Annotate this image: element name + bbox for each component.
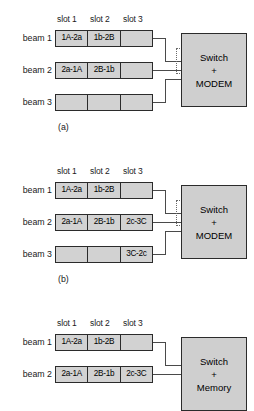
beam-1-slot-3-cell <box>121 183 152 198</box>
beam-2-row: 2a-1A 2B-1b <box>55 62 153 79</box>
switch-node: Switch + MODEM <box>181 185 247 259</box>
beam-2-label: beam 2 <box>4 369 52 379</box>
beam-2-slot-1-cell: 2a-1A <box>56 215 88 230</box>
beam-3-slot-2-cell <box>88 247 120 262</box>
panel-a-caption: (a) <box>58 122 69 132</box>
switch-node-line-1: Switch <box>200 51 228 64</box>
beam-2-label: beam 2 <box>4 65 52 75</box>
beam-2-label: beam 2 <box>4 217 52 227</box>
wire-beam-3-v <box>165 79 166 103</box>
beam-3-row <box>55 94 153 111</box>
slot-1-header: slot 1 <box>57 318 77 328</box>
slot-1-header: slot 1 <box>57 14 77 24</box>
wire-beam-3-v <box>165 231 166 255</box>
switch-node-line-2: + <box>211 216 217 229</box>
wire-beam-1-v <box>165 342 166 366</box>
switch-node-line-2: + <box>211 64 217 77</box>
beam-2-row: 2a-1A 2B-1b 2c-3C <box>55 214 153 231</box>
slot-2-header: slot 2 <box>90 318 110 328</box>
beam-1-row: 1A-2a 1b-2B <box>55 334 153 351</box>
beam-2-slot-3-cell: 2c-3C <box>121 215 152 230</box>
beam-1-slot-3-cell <box>121 31 152 46</box>
beam-1-slot-2-cell: 1b-2B <box>88 335 120 350</box>
beam-3-slot-1-cell <box>56 95 88 110</box>
switch-node-line-3: MODEM <box>196 229 232 242</box>
beam-1-slot-3-cell <box>121 335 152 350</box>
beam-1-slot-2-cell: 1b-2B <box>88 31 120 46</box>
switch-node-line-3: Memory <box>197 381 231 394</box>
beam-1-row: 1A-2a 1b-2B <box>55 182 153 199</box>
switch-node-line-1: Switch <box>200 355 228 368</box>
slot-3-header: slot 3 <box>123 166 143 176</box>
beam-1-label: beam 1 <box>4 33 52 43</box>
beam-1-row: 1A-2a 1b-2B <box>55 30 153 47</box>
switch-node: Switch + Memory <box>181 337 247 411</box>
beam-2-slot-1-cell: 2a-1A <box>56 367 88 382</box>
beam-2-slot-2-cell: 2B-1b <box>88 367 120 382</box>
beam-2-slot-1-cell: 2a-1A <box>56 63 88 78</box>
panel-b: slot 1 slot 2 slot 3 beam 1 1A-2a 1b-2B … <box>0 152 254 287</box>
beam-1-slot-1-cell: 1A-2a <box>56 31 88 46</box>
beam-3-slot-1-cell <box>56 247 88 262</box>
beam-3-label: beam 3 <box>4 249 52 259</box>
switch-node: Switch + MODEM <box>181 33 247 107</box>
slot-1-header: slot 1 <box>57 166 77 176</box>
slot-3-header: slot 3 <box>123 318 143 328</box>
beam-1-label: beam 1 <box>4 185 52 195</box>
beam-2-slot-2-cell: 2B-1b <box>88 63 120 78</box>
switch-node-line-1: Switch <box>200 203 228 216</box>
wire-beam-1-v <box>165 190 166 214</box>
beam-3-label: beam 3 <box>4 97 52 107</box>
beam-1-slot-1-cell: 1A-2a <box>56 335 88 350</box>
beam-1-slot-2-cell: 1b-2B <box>88 183 120 198</box>
beam-2-slot-3-cell: 2c-3C <box>121 367 152 382</box>
switch-node-line-3: MODEM <box>196 77 232 90</box>
slot-2-header: slot 2 <box>90 166 110 176</box>
beam-2-slot-2-cell: 2B-1b <box>88 215 120 230</box>
panel-c: slot 1 slot 2 slot 3 beam 1 1A-2a 1b-2B … <box>0 304 254 380</box>
beam-2-row: 2a-1A 2B-1b 2c-3C <box>55 366 153 383</box>
switch-node-line-2: + <box>211 368 217 381</box>
beam-1-slot-1-cell: 1A-2a <box>56 183 88 198</box>
beam-3-slot-2-cell <box>88 95 120 110</box>
beam-3-row: 3C-2c <box>55 246 153 263</box>
wire-beam-3-h2 <box>165 79 182 80</box>
wire-beam-1-v <box>165 38 166 62</box>
wire-beam-2-h <box>153 374 182 375</box>
slot-3-header: slot 3 <box>123 14 143 24</box>
beam-2-slot-3-cell <box>121 63 152 78</box>
wire-beam-1-h2 <box>165 365 182 366</box>
beam-3-slot-3-cell <box>121 95 152 110</box>
wire-beam-3-h2 <box>165 231 182 232</box>
slot-2-header: slot 2 <box>90 14 110 24</box>
beam-1-label: beam 1 <box>4 337 52 347</box>
panel-b-caption: (b) <box>58 274 69 284</box>
beam-3-slot-3-cell: 3C-2c <box>121 247 152 262</box>
panel-a: 3 slot 1 slot 2 slot 3 beam 1 1A-2a 1b-2… <box>0 0 254 135</box>
